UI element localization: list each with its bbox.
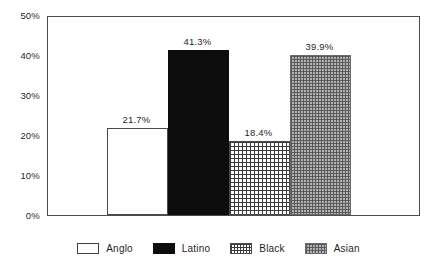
chart-legend: AngloLatinoBlackAsian — [0, 238, 437, 258]
plot-area — [47, 16, 420, 216]
legend-item-black[interactable]: Black — [230, 243, 284, 254]
legend-item-label: Latino — [182, 243, 210, 254]
y-axis-tick-label: 10% — [0, 170, 47, 182]
legend-swatch-icon — [305, 243, 327, 254]
y-axis-tick-label: 20% — [0, 130, 47, 142]
legend-item-asian[interactable]: Asian — [305, 243, 360, 254]
bar-chart-figure: 0%10%20%30%40%50% 21.7%41.3%18.4%39.9% A… — [0, 0, 437, 267]
y-axis-tick-label: 0% — [0, 210, 47, 222]
legend-item-label: Black — [259, 243, 284, 254]
bar-value-label-anglo: 21.7% — [106, 114, 167, 125]
bar-black — [229, 141, 290, 215]
bar-latino — [168, 50, 229, 215]
bar-value-label-latino: 41.3% — [167, 36, 228, 47]
legend-swatch-icon — [77, 243, 99, 254]
legend-item-label: Anglo — [106, 243, 133, 254]
legend-item-latino[interactable]: Latino — [153, 243, 210, 254]
bar-value-label-black: 18.4% — [228, 127, 289, 138]
y-axis-tick-label: 40% — [0, 50, 47, 62]
y-axis-tick-label: 30% — [0, 90, 47, 102]
legend-swatch-icon — [230, 243, 252, 254]
bar-anglo — [107, 128, 168, 215]
legend-swatch-icon — [153, 243, 175, 254]
legend-item-anglo[interactable]: Anglo — [77, 243, 133, 254]
bar-value-label-asian: 39.9% — [289, 41, 350, 52]
legend-item-label: Asian — [334, 243, 360, 254]
bar-asian — [290, 55, 351, 215]
y-axis-tick-label: 50% — [0, 10, 47, 22]
